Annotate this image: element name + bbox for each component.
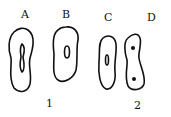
label-b: B bbox=[62, 9, 70, 20]
group-label-2: 2 bbox=[134, 100, 141, 111]
cell-a bbox=[9, 28, 33, 91]
label-d: D bbox=[147, 12, 156, 23]
group-label-1: 1 bbox=[46, 98, 53, 109]
cell-c bbox=[99, 36, 116, 89]
label-c: C bbox=[104, 12, 112, 23]
label-a: A bbox=[21, 9, 29, 20]
cell-diagram: A B C D 1 2 bbox=[0, 0, 171, 117]
cell-d bbox=[125, 34, 145, 89]
cell-b bbox=[53, 27, 78, 81]
